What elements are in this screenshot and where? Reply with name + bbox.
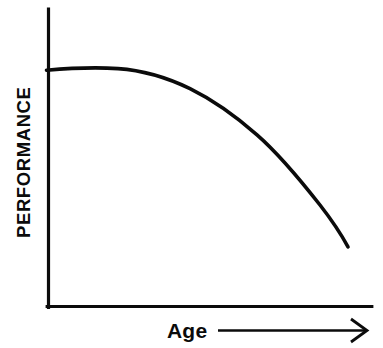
chart-figure: PERFORMANCE Age [0, 0, 383, 348]
y-axis-label: PERFORMANCE [13, 86, 34, 238]
performance-curve [47, 68, 349, 247]
x-axis-label: Age [167, 319, 207, 342]
chart-canvas: PERFORMANCE Age [0, 0, 383, 348]
